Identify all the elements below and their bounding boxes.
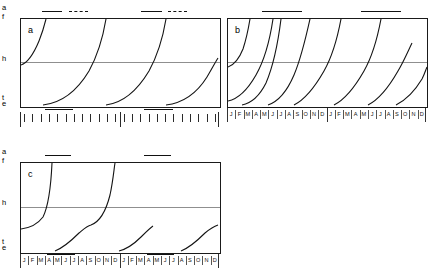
curve-7 [368, 43, 412, 105]
curve-4 [181, 225, 218, 251]
panel-b-month-axis: JFMAMJJASONDJFMAMJJASOND [227, 108, 426, 124]
curve-4 [268, 19, 310, 105]
month-label-O: O [302, 111, 310, 117]
month-separator [235, 110, 236, 119]
activity-bar-4-dashed [168, 11, 187, 12]
month-separator [376, 110, 377, 119]
activity-bar-2-solid [144, 109, 172, 110]
month-separator [186, 256, 187, 265]
month-separator [178, 256, 179, 265]
month-separator [293, 110, 294, 119]
month-label-M: M [136, 257, 144, 263]
month-label-O: O [194, 257, 202, 263]
month-label-O: O [95, 257, 103, 263]
panel-c-curves [21, 163, 220, 253]
panel-b-curves [228, 19, 427, 107]
curve-2 [228, 19, 273, 101]
panel-c-ylabel-h: h [2, 199, 16, 207]
month-label-J: J [227, 111, 235, 117]
month-separator [211, 256, 212, 265]
month-label-A: A [45, 257, 53, 263]
month-tick [66, 114, 67, 122]
month-separator [161, 256, 162, 265]
activity-bar-1-solid [42, 11, 63, 12]
month-label-N: N [409, 111, 417, 117]
month-tick [124, 114, 125, 122]
month-tick [107, 114, 108, 122]
month-label-J: J [376, 111, 384, 117]
month-separator [318, 110, 319, 119]
month-label-J: J [70, 257, 78, 263]
month-separator [252, 110, 253, 119]
month-label-D: D [318, 111, 326, 117]
month-tick [190, 114, 191, 122]
month-tick [99, 114, 100, 122]
month-tick [74, 114, 75, 122]
month-separator [268, 110, 269, 119]
month-label-M: M [360, 111, 368, 117]
month-label-A: A [351, 111, 359, 117]
month-label-M: M [53, 257, 61, 263]
month-label-F: F [335, 111, 343, 117]
month-separator [335, 110, 336, 119]
month-label-N: N [310, 111, 318, 117]
month-separator [144, 256, 145, 265]
month-label-M: M [153, 257, 161, 263]
month-tick [90, 114, 91, 122]
month-separator [45, 256, 46, 265]
figure-root: a f h t e a b JFMAMJJASONDJFMAMJJASOND a [0, 0, 436, 280]
month-separator [310, 110, 311, 119]
month-separator [194, 256, 195, 265]
year-boundary-separator [227, 108, 228, 122]
month-separator [202, 256, 203, 265]
month-separator [103, 256, 104, 265]
month-label-M: M [343, 111, 351, 117]
month-label-F: F [235, 111, 243, 117]
month-separator [343, 110, 344, 119]
activity-bar-1-solid [45, 155, 72, 156]
month-label-S: S [186, 257, 194, 263]
panel-a-curves [21, 19, 220, 107]
month-label-D: D [111, 257, 119, 263]
month-label-S: S [393, 111, 401, 117]
month-separator [277, 110, 278, 119]
month-separator [95, 256, 96, 265]
month-separator [53, 256, 54, 265]
month-tick [215, 114, 216, 122]
month-label-O: O [401, 111, 409, 117]
activity-bar-2-solid [361, 11, 401, 12]
panel-c-plot-area: c [20, 162, 221, 254]
activity-bar-1-solid [262, 11, 302, 12]
month-label-J: J [169, 257, 177, 263]
year-boundary-separator [327, 108, 328, 122]
month-separator [37, 256, 38, 265]
month-separator [385, 110, 386, 119]
month-separator [70, 256, 71, 265]
month-label-M: M [244, 111, 252, 117]
panel-a-ylabel-e: e [2, 100, 16, 108]
panel-a-ylabel-a: a [2, 4, 16, 12]
month-separator [86, 256, 87, 265]
month-tick [82, 114, 83, 122]
panel-a-ylabel-h: h [2, 55, 16, 63]
month-tick [115, 114, 116, 122]
month-label-J: J [120, 257, 128, 263]
curve-1 [228, 19, 250, 67]
month-separator [368, 110, 369, 119]
year-boundary-separator [20, 254, 21, 268]
panel-c-month-axis: JFMAMJJASONDJFMAMJJASOND [20, 254, 219, 270]
month-tick [24, 114, 25, 122]
panel-a-plot-area: a [20, 18, 221, 108]
month-label-M: M [37, 257, 45, 263]
month-separator [169, 256, 170, 265]
month-separator [302, 110, 303, 119]
month-tick [173, 114, 174, 122]
month-tick [165, 114, 166, 122]
activity-bar-2-solid [144, 155, 171, 156]
year-boundary-tick [20, 112, 21, 127]
month-separator [260, 110, 261, 119]
activity-bar-3-solid [141, 11, 162, 12]
month-label-F: F [128, 257, 136, 263]
curve-5 [294, 19, 341, 105]
panel-a: a f h t e a [0, 0, 220, 136]
